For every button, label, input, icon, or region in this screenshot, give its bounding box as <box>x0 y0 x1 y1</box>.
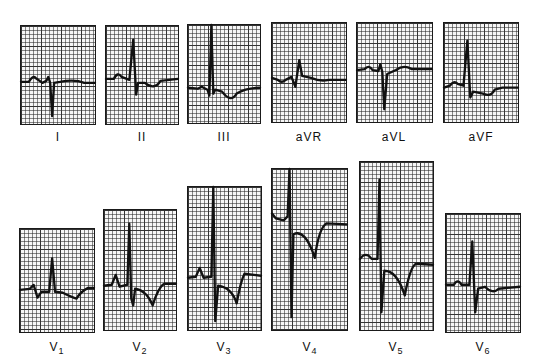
ecg-panel-lead-V4 <box>271 168 348 331</box>
ecg-trace-lead-aVL <box>357 23 432 122</box>
ecg-trace-lead-V2 <box>104 210 176 330</box>
ecg-trace-lead-aVF <box>444 23 518 122</box>
ecg-panel-lead-II <box>105 25 179 125</box>
lead-label-aVL: aVL <box>364 130 424 144</box>
ecg-trace-lead-V6 <box>446 214 520 332</box>
ecg-panel-lead-aVR <box>271 22 347 123</box>
lead-label-III: III <box>194 130 254 144</box>
ecg-panel-lead-I <box>20 25 96 125</box>
ecg-trace-lead-V4 <box>272 169 347 330</box>
ecg-panel-lead-aVF <box>443 22 519 123</box>
lead-label-II: II <box>112 130 172 144</box>
ecg-trace-lead-V3 <box>188 187 261 330</box>
lead-label-I: I <box>28 130 88 144</box>
lead-label-V2: V2 <box>110 340 170 356</box>
ecg-panel-lead-V6 <box>445 213 521 333</box>
ecg-trace-lead-I <box>21 26 95 124</box>
ecg-panel-lead-V3 <box>187 186 262 331</box>
ecg-panel-lead-V5 <box>359 161 434 331</box>
lead-label-V5: V5 <box>366 340 426 356</box>
ecg-trace-lead-V1 <box>20 229 94 332</box>
ecg-trace-lead-II <box>106 26 178 124</box>
lead-label-V4: V4 <box>280 340 340 356</box>
lead-label-V6: V6 <box>453 340 513 356</box>
ecg-trace-lead-V5 <box>360 162 433 330</box>
lead-label-aVR: aVR <box>279 130 339 144</box>
ecg-trace-lead-aVR <box>272 23 346 122</box>
ecg-panel-lead-V2 <box>103 209 177 331</box>
lead-label-V1: V1 <box>27 340 87 356</box>
ecg-trace-lead-III <box>188 25 260 123</box>
lead-label-V3: V3 <box>194 340 254 356</box>
ecg-panel-lead-III <box>187 24 261 124</box>
ecg-panel-lead-V1 <box>19 228 95 333</box>
lead-label-aVF: aVF <box>451 130 511 144</box>
ecg-panel-lead-aVL <box>356 22 433 123</box>
